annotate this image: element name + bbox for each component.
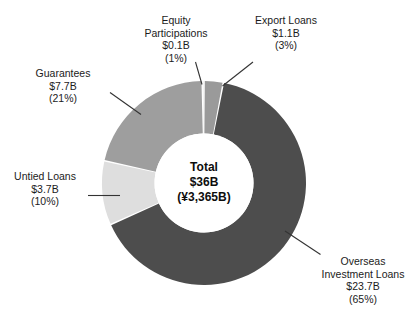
- label-export-loans: Export Loans $1.1B (3%): [238, 14, 334, 52]
- leader-line-overseas: [285, 231, 321, 255]
- center-total-jpy: (¥3,365B): [154, 190, 254, 205]
- label-guarantees: Guarantees $7.7B (21%): [17, 67, 109, 105]
- leader-line-guarantees: [110, 93, 141, 115]
- label-export-percent: (3%): [238, 39, 334, 52]
- label-untied-loans: Untied Loans $3.7B (10%): [2, 170, 88, 208]
- center-total-title: Total: [154, 160, 254, 175]
- label-untied-name: Untied Loans: [2, 170, 88, 183]
- label-export-name: Export Loans: [238, 14, 334, 27]
- label-equity-amount: $0.1B: [128, 39, 224, 52]
- slice-equity-participations[interactable]: [203, 81, 204, 134]
- center-total-usd: $36B: [154, 175, 254, 190]
- label-guarantees-name: Guarantees: [17, 67, 109, 80]
- label-export-amount: $1.1B: [238, 27, 334, 40]
- label-equity-name-2: Participations: [128, 27, 224, 40]
- label-untied-percent: (10%): [2, 195, 88, 208]
- donut-chart-figure: Equity Participations $0.1B (1%) Export …: [0, 0, 409, 327]
- label-overseas-name-2: Investment Loans: [318, 268, 408, 281]
- leader-line-export: [223, 62, 254, 86]
- leader-line-equity: [196, 62, 203, 85]
- label-equity-name-1: Equity: [128, 14, 224, 27]
- label-guarantees-percent: (21%): [17, 92, 109, 105]
- label-overseas-investment-loans: Overseas Investment Loans $23.7B (65%): [318, 255, 408, 305]
- label-overseas-percent: (65%): [318, 293, 408, 306]
- label-overseas-amount: $23.7B: [318, 280, 408, 293]
- label-overseas-name-1: Overseas: [318, 255, 408, 268]
- label-equity-participations: Equity Participations $0.1B (1%): [128, 14, 224, 64]
- label-equity-percent: (1%): [128, 52, 224, 65]
- label-guarantees-amount: $7.7B: [17, 80, 109, 93]
- label-untied-amount: $3.7B: [2, 183, 88, 196]
- donut-center-total: Total $36B (¥3,365B): [154, 160, 254, 205]
